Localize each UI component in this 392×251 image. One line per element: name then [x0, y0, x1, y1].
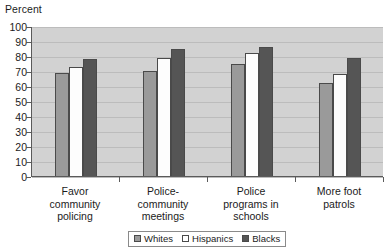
y-tick-label: 10	[0, 157, 27, 167]
x-category-label: Police programs in schools	[207, 185, 295, 223]
bar-whites	[231, 64, 245, 177]
legend-item: Whites	[134, 233, 173, 244]
y-tick-label: 90	[0, 37, 27, 47]
plot-area	[31, 27, 383, 177]
bar-group-bars	[296, 27, 384, 176]
y-tick-mark	[26, 87, 31, 88]
bar-hispanics	[69, 67, 83, 177]
x-category-label: More foot patrols	[295, 185, 383, 210]
legend-label: Blacks	[252, 233, 280, 244]
bar-blacks	[83, 59, 97, 176]
y-tick-label: 70	[0, 67, 27, 77]
bar-blacks	[259, 47, 273, 176]
y-tick-mark	[26, 42, 31, 43]
bar-hispanics	[157, 58, 171, 177]
x-tick-mark	[383, 177, 384, 182]
bar-group-bars	[120, 27, 208, 176]
legend-item: Hispanics	[182, 233, 233, 244]
bar-whites	[143, 71, 157, 176]
bar-group	[120, 27, 208, 176]
bars-layer	[32, 27, 383, 176]
x-tick-mark	[207, 177, 208, 182]
y-tick-mark	[26, 132, 31, 133]
y-tick-label: 0	[0, 172, 27, 182]
bar-whites	[55, 73, 69, 177]
chart-legend: WhitesHispanicsBlacks	[128, 231, 286, 247]
bar-hispanics	[245, 53, 259, 176]
y-tick-mark	[26, 72, 31, 73]
x-tick-mark	[119, 177, 120, 182]
y-tick-mark	[26, 102, 31, 103]
y-tick-mark	[26, 117, 31, 118]
bar-hispanics	[333, 74, 347, 176]
y-tick-label: 30	[0, 127, 27, 137]
y-tick-label: 20	[0, 142, 27, 152]
y-tick-mark	[26, 147, 31, 148]
bar-blacks	[347, 58, 361, 177]
y-tick-label: 100	[0, 22, 27, 32]
x-tick-mark	[295, 177, 296, 182]
bar-chart: Percent 1009080706050403020100 Favor com…	[0, 0, 392, 251]
y-tick-label: 60	[0, 82, 27, 92]
legend-item: Blacks	[242, 233, 280, 244]
bar-group-bars	[32, 27, 120, 176]
y-tick-label: 80	[0, 52, 27, 62]
bar-whites	[319, 83, 333, 176]
y-tick-mark	[26, 162, 31, 163]
legend-label: Whites	[144, 233, 173, 244]
bar-group	[32, 27, 120, 176]
legend-swatch-icon	[242, 235, 249, 242]
x-category-label: Police- community meetings	[119, 185, 207, 223]
y-tick-label: 50	[0, 97, 27, 107]
legend-label: Hispanics	[192, 233, 233, 244]
legend-swatch-icon	[134, 235, 141, 242]
y-axis-title: Percent	[5, 3, 42, 15]
y-tick-mark	[26, 177, 31, 178]
x-category-label: Favor community policing	[31, 185, 119, 223]
bar-blacks	[171, 49, 185, 177]
bar-group-bars	[208, 27, 296, 176]
y-tick-label: 40	[0, 112, 27, 122]
legend-swatch-icon	[182, 235, 189, 242]
y-tick-mark	[26, 27, 31, 28]
y-tick-mark	[26, 57, 31, 58]
bar-group	[296, 27, 384, 176]
bar-group	[208, 27, 296, 176]
